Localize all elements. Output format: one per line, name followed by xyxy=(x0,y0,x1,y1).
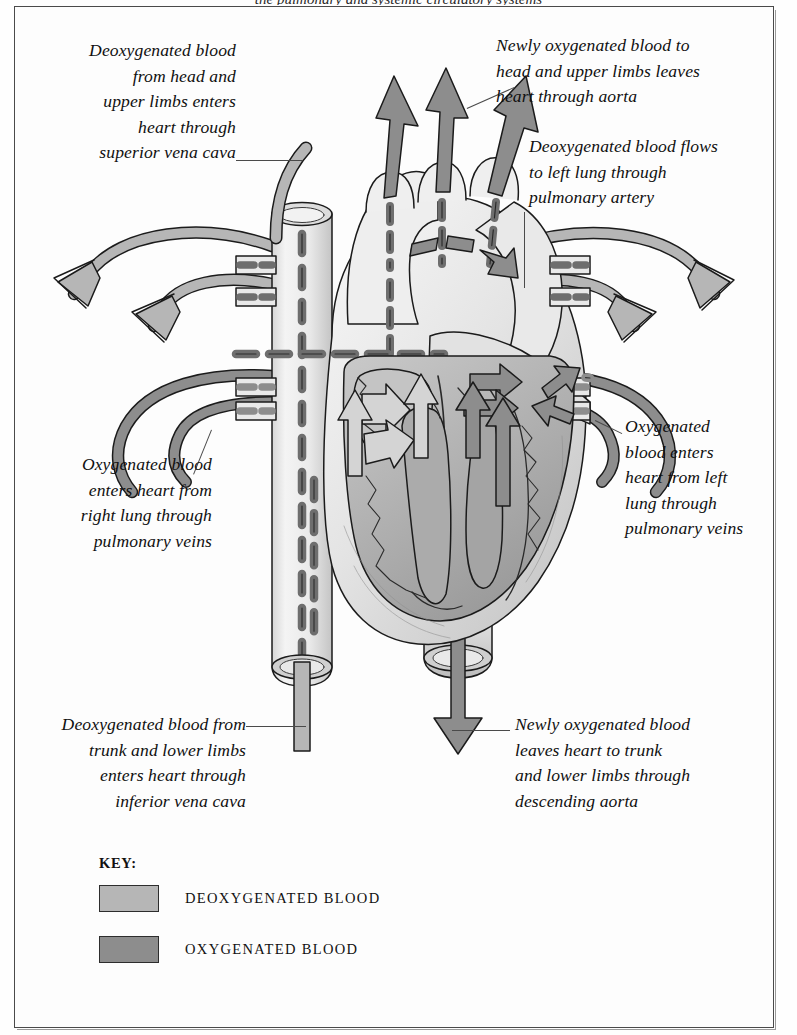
clipped-caption-top: the pulmonary and systemic circulatory s… xyxy=(0,0,797,5)
key-label-oxygenated: OXYGENATED BLOOD xyxy=(185,941,358,958)
vessel-superior-vena-cava xyxy=(272,203,332,687)
vessel-inferior-vena-cava xyxy=(272,655,332,751)
key-label-deoxygenated: DEOXYGENATED BLOOD xyxy=(185,890,380,907)
annotation-descending-aorta: Newly oxygenated blood leaves heart to t… xyxy=(515,712,755,814)
key-row-oxygenated: OXYGENATED BLOOD xyxy=(99,936,380,963)
annotation-superior-vena-cava: Deoxygenated blood from head and upper l… xyxy=(56,38,236,166)
key-legend: KEY: DEOXYGENATED BLOOD OXYGENATED BLOOD xyxy=(99,855,380,987)
annotation-right-pulmonary-veins: Oxygenated blood enters heart from right… xyxy=(32,452,212,554)
annotation-inferior-vena-cava: Deoxygenated blood from trunk and lower … xyxy=(36,712,246,814)
annotation-pulmonary-artery: Deoxygenated blood flows to left lung th… xyxy=(529,134,769,211)
annotation-aorta: Newly oxygenated blood to head and upper… xyxy=(496,33,744,110)
leader-superior-vena-cava xyxy=(236,160,302,161)
page-root: the pulmonary and systemic circulatory s… xyxy=(0,0,797,1035)
key-swatch-oxygenated xyxy=(99,936,159,963)
leader-descending-aorta xyxy=(452,730,510,731)
key-swatch-deoxygenated xyxy=(99,885,159,912)
leader-pulmonary-artery xyxy=(524,212,525,288)
key-row-deoxygenated: DEOXYGENATED BLOOD xyxy=(99,885,380,912)
annotation-left-pulmonary-veins: Oxygenated blood enters heart from left … xyxy=(625,414,775,542)
leader-inferior-vena-cava xyxy=(246,726,306,727)
key-title: KEY: xyxy=(99,855,380,872)
